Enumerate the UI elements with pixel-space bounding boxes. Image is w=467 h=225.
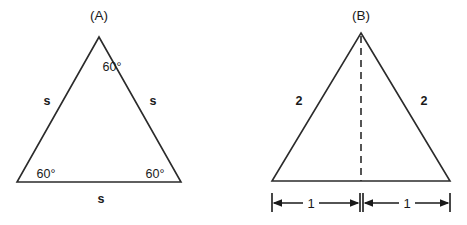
dimension-right-half-base-label: 1 <box>403 196 410 211</box>
dimension-right-arrowhead-left <box>364 199 374 207</box>
panel-a: (A) 60° 60° 60° s s s <box>17 8 181 206</box>
triangle-a-base-side-label: s <box>98 192 105 206</box>
triangle-a-outline <box>17 37 181 182</box>
panel-b-title: (B) <box>352 8 370 23</box>
dimension-left-arrowhead-right <box>350 199 360 207</box>
dimension-right-arrowhead-right <box>440 199 450 207</box>
panel-a-title: (A) <box>90 8 108 23</box>
triangle-a-bottom-right-angle-label: 60° <box>146 167 165 181</box>
triangle-b-left-side-label: 2 <box>296 94 303 108</box>
panel-b: (B) 2 2 1 <box>272 8 450 212</box>
dimension-left-arrowhead-left <box>273 199 283 207</box>
dimension-right-half-base: 1 <box>363 193 450 212</box>
dimension-left-half-base: 1 <box>272 193 360 212</box>
figure-canvas: (A) 60° 60° 60° s s s (B) 2 2 <box>0 0 467 225</box>
triangle-a-bottom-left-angle-label: 60° <box>37 167 56 181</box>
triangle-b-right-side-label: 2 <box>421 94 428 108</box>
geometry-figure: (A) 60° 60° 60° s s s (B) 2 2 <box>0 0 467 225</box>
triangle-a-apex-angle-label: 60° <box>103 60 122 74</box>
triangle-a-left-side-label: s <box>44 94 51 108</box>
triangle-a-right-side-label: s <box>150 94 157 108</box>
dimension-left-half-base-label: 1 <box>307 196 314 211</box>
